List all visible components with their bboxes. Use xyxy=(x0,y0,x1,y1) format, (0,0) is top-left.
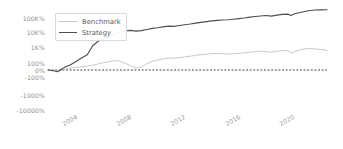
x-tick-label: 2016 xyxy=(224,113,241,127)
x-tick-label: 2008 xyxy=(115,113,132,127)
legend-label: Benchmark xyxy=(82,18,121,26)
chart-legend[interactable]: BenchmarkStrategy xyxy=(55,13,127,41)
legend-item-benchmark[interactable]: Benchmark xyxy=(59,16,121,27)
x-tick-label: 2004 xyxy=(61,113,78,127)
legend-line-swatch-icon xyxy=(59,21,77,22)
x-tick-label: 2012 xyxy=(169,113,186,127)
cumulative-returns-chart: 100K%10K%1K%100%0%-100%-1000%-10000% 200… xyxy=(0,0,343,149)
x-tick-label: 2020 xyxy=(278,113,295,127)
legend-line-swatch-icon xyxy=(59,32,77,33)
x-axis-tick-labels: 20042008201220162020 xyxy=(0,0,343,149)
legend-item-strategy[interactable]: Strategy xyxy=(59,27,121,38)
legend-label: Strategy xyxy=(82,29,111,37)
